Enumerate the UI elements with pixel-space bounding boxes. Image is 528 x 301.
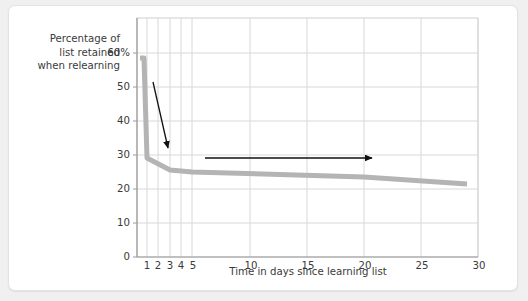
retention-chart [0,0,528,301]
